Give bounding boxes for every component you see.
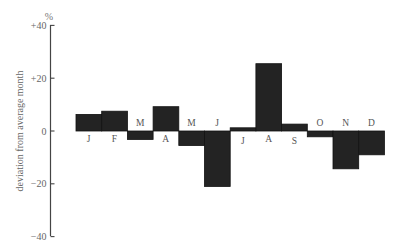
- month-label-nov: N: [342, 118, 349, 128]
- month-label-dec: D: [368, 118, 375, 128]
- month-label-jun: J: [215, 118, 219, 128]
- month-label-mar: M: [136, 118, 145, 128]
- month-label-oct: O: [317, 118, 324, 128]
- bar-jun: [205, 131, 231, 186]
- y-tick-label: −20: [31, 178, 47, 189]
- bar-jan: [76, 114, 102, 131]
- bar-aug: [256, 64, 282, 131]
- y-tick-label: 0: [42, 126, 47, 137]
- y-tick-label: −40: [31, 231, 47, 242]
- month-label-jan: J: [87, 134, 91, 144]
- bar-mar: [127, 131, 153, 139]
- month-label-may: M: [187, 118, 196, 128]
- bars: [76, 64, 384, 187]
- bar-feb: [102, 111, 128, 131]
- month-label-feb: F: [112, 134, 118, 144]
- month-label-aug: A: [265, 134, 272, 144]
- bar-apr: [153, 107, 179, 131]
- month-label-sep: S: [292, 136, 298, 146]
- y-tick-label: +40: [31, 20, 47, 31]
- y-tick-label: +20: [31, 73, 47, 84]
- month-label-jul: J: [241, 136, 245, 146]
- y-axis-title: deviation from average month: [14, 71, 25, 192]
- bar-oct: [307, 131, 333, 137]
- bar-sep: [282, 124, 308, 131]
- month-label-apr: A: [162, 134, 169, 144]
- bar-chart: % +40+200−20−40 deviation from average m…: [0, 0, 396, 250]
- bar-dec: [359, 131, 385, 155]
- bar-jul: [230, 128, 256, 131]
- bar-may: [179, 131, 205, 146]
- bar-nov: [333, 131, 359, 169]
